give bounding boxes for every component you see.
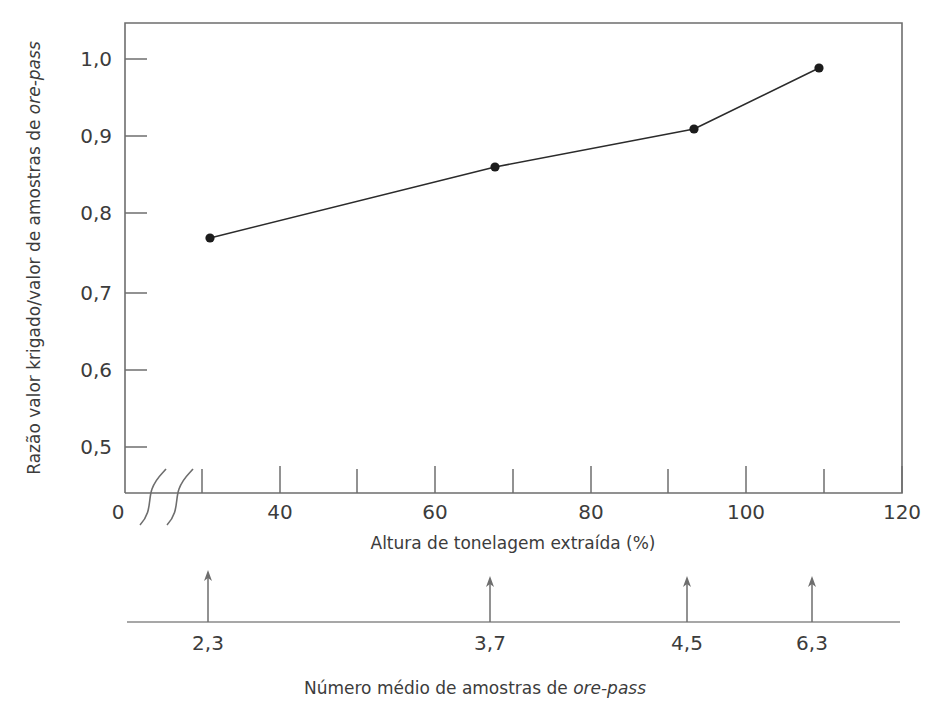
axis-break-icon bbox=[140, 469, 193, 525]
data-point bbox=[490, 162, 499, 171]
secondary-axis-title-italic: ore-pass bbox=[573, 678, 646, 698]
y-tick-label-1-0: 1,0 bbox=[80, 47, 112, 71]
y-tick-label-0-6: 0,6 bbox=[80, 358, 112, 382]
y-tick-label-0-5: 0,5 bbox=[80, 435, 112, 459]
secondary-axis-title: Número médio de amostras de ore-pass bbox=[304, 678, 646, 698]
x-tick-label-60: 60 bbox=[422, 500, 447, 524]
secondary-tick-label-2-3: 2,3 bbox=[192, 631, 224, 655]
data-point bbox=[205, 233, 214, 242]
chart-svg: 1,0 0,9 0,8 0,7 0,6 0,5 bbox=[0, 0, 932, 725]
secondary-axis-arrow bbox=[486, 576, 494, 622]
secondary-tick-label-4-5: 4,5 bbox=[671, 631, 703, 655]
data-point bbox=[814, 63, 823, 72]
secondary-axis-arrow bbox=[204, 570, 212, 622]
x-axis-title: Altura de tonelagem extraída (%) bbox=[371, 533, 656, 553]
x-tick-label-80: 80 bbox=[578, 500, 603, 524]
series-polyline bbox=[210, 68, 819, 238]
y-tick-label-0-8: 0,8 bbox=[80, 201, 112, 225]
secondary-tick-label-6-3: 6,3 bbox=[796, 631, 828, 655]
x-tick-label-100: 100 bbox=[727, 500, 765, 524]
x-tick-label-0: 0 bbox=[112, 500, 125, 524]
x-axis-tick-labels: 0 40 60 80 100 120 bbox=[112, 500, 921, 524]
secondary-axis-title-plain: Número médio de amostras de bbox=[304, 678, 573, 698]
x-tick-label-120: 120 bbox=[883, 500, 921, 524]
y-tick-label-0-9: 0,9 bbox=[80, 124, 112, 148]
y-axis-title: Razão valor krigado/valor de amostras de… bbox=[24, 41, 44, 475]
data-series bbox=[205, 63, 823, 242]
data-point bbox=[689, 124, 698, 133]
y-axis-tick-labels: 1,0 0,9 0,8 0,7 0,6 0,5 bbox=[80, 47, 112, 459]
x-axis-ticks bbox=[202, 466, 902, 493]
secondary-axis-arrow bbox=[808, 576, 816, 622]
plot-frame bbox=[125, 23, 902, 493]
y-axis-ticks bbox=[125, 59, 147, 447]
secondary-tick-label-3-7: 3,7 bbox=[474, 631, 506, 655]
x-tick-label-40: 40 bbox=[267, 500, 292, 524]
y-tick-label-0-7: 0,7 bbox=[80, 281, 112, 305]
y-axis-title-plain: Razão valor krigado/valor de amostras de bbox=[24, 114, 44, 475]
chart-figure: 1,0 0,9 0,8 0,7 0,6 0,5 bbox=[0, 0, 932, 725]
y-axis-title-italic: ore-pass bbox=[24, 41, 44, 114]
secondary-axis: 2,3 3,7 4,5 6,3 bbox=[127, 570, 900, 655]
secondary-axis-arrow bbox=[683, 576, 691, 622]
